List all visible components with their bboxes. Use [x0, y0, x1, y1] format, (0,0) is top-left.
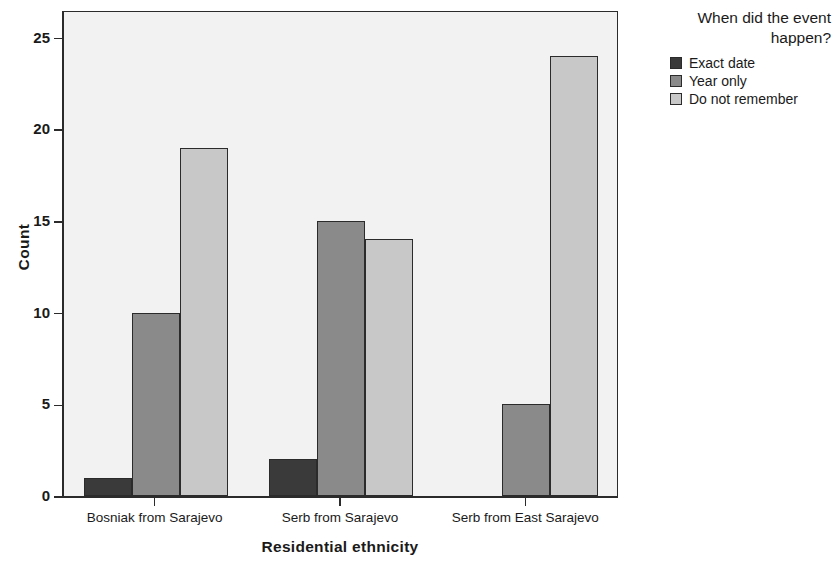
y-tick: [54, 221, 62, 223]
bar: [317, 221, 365, 496]
y-tick: [54, 405, 62, 407]
y-tick: [54, 38, 62, 40]
bar: [365, 239, 413, 496]
legend-title-line-2: happen?: [771, 29, 831, 46]
plot-area: [62, 11, 618, 497]
legend-swatch-icon: [670, 57, 682, 69]
y-tick: [54, 129, 62, 131]
y-tick: [54, 313, 62, 315]
bar: [84, 478, 132, 496]
y-tick-label: 20: [0, 120, 50, 137]
bar-group: [454, 12, 598, 496]
x-tick: [154, 497, 156, 506]
bar: [502, 404, 550, 496]
y-axis-line: [62, 11, 64, 497]
legend-item: Exact date: [670, 54, 835, 71]
legend-label: Exact date: [689, 55, 755, 71]
y-axis-title: Count: [15, 202, 33, 292]
legend-title-line-1: When did the event: [697, 9, 831, 26]
legend-label: Do not remember: [689, 91, 798, 107]
legend-items: Exact dateYear onlyDo not remember: [670, 54, 835, 107]
x-tick: [525, 497, 527, 506]
legend-swatch-icon: [670, 75, 682, 87]
bar-group: [269, 12, 413, 496]
legend-item: Year only: [670, 72, 835, 89]
legend-item: Do not remember: [670, 90, 835, 107]
y-tick-label: 5: [0, 395, 50, 412]
bar: [180, 148, 228, 496]
bar-chart: 0510152025 Count Bosniak from SarajevoSe…: [0, 0, 839, 564]
x-tick-label: Serb from East Sarajevo: [415, 510, 635, 525]
legend: When did the event happen? Exact dateYea…: [639, 8, 835, 108]
y-tick-label: 10: [0, 304, 50, 321]
bars-layer: [63, 12, 617, 496]
bar-group: [84, 12, 228, 496]
bar: [550, 56, 598, 496]
y-tick: [54, 496, 62, 498]
bar: [132, 313, 180, 496]
x-axis-title: Residential ethnicity: [62, 538, 618, 556]
legend-label: Year only: [689, 73, 747, 89]
x-tick: [339, 497, 341, 506]
y-tick-label: 0: [0, 487, 50, 504]
legend-title: When did the event happen?: [639, 8, 831, 48]
bar: [269, 459, 317, 496]
y-tick-label: 25: [0, 29, 50, 46]
legend-swatch-icon: [670, 93, 682, 105]
